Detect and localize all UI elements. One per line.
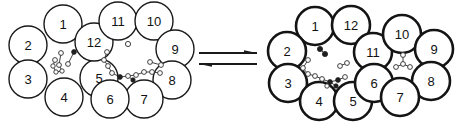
left-circle-4[interactable]: 4 [45,78,83,116]
right-circle-label: 1 [311,19,318,34]
left-circle-label: 3 [24,72,31,87]
atom-node-open [126,74,131,79]
atom-node-open [142,70,147,75]
atom-node-open [159,63,164,68]
atom-node-open [51,64,55,68]
right-circle-label: 4 [315,94,322,109]
atom-node-open [158,71,163,76]
left-circle-label: 6 [106,92,113,107]
equilibrium-figure: 123451211109876 112234511610987 [0,0,457,125]
atom-node-open [150,70,155,75]
atom-node-open [105,50,110,55]
right-cavity-small [394,53,413,70]
left-circle-label: 8 [168,73,175,88]
right-circle-label: 7 [396,90,403,105]
atom-node-open [401,53,406,58]
equilibrium-arrows[interactable] [199,50,257,67]
atom-node-open [134,73,139,78]
forward-arrow[interactable] [199,50,257,53]
right-circle-label: 3 [284,76,291,91]
atom-node-open [54,70,58,74]
right-circle-label: 5 [349,94,356,109]
atom-node-filled [131,78,135,82]
atom-node-open [313,74,318,79]
atom-node-open [106,64,111,69]
atom-node-open [66,62,71,67]
right-circle-label: 6 [370,76,377,91]
atom-node-open [148,60,153,65]
atom-node-open [325,84,329,88]
left-circle-label: 9 [171,42,178,57]
atom-node-open [110,71,115,76]
left-circle-label: 12 [87,35,101,50]
atom-node-open [338,64,343,69]
left-circle-11[interactable]: 11 [99,2,137,40]
atom-node-open [102,58,107,63]
left-circle-label: 2 [24,38,31,53]
atom-node-filled [328,80,333,85]
left-circle-label: 10 [147,14,161,29]
left-circle-label: 4 [60,90,67,105]
left-circle-label: 11 [111,14,125,29]
atom-node-open [343,75,348,80]
left-circle-7[interactable]: 7 [125,80,163,118]
atom-node-open [401,62,406,67]
left-circle-label: 7 [140,92,147,107]
atom-node-open [394,65,399,70]
atom-node-open [408,65,413,70]
atom-node-open [306,72,311,77]
atom-node-open [57,63,62,68]
left-cavity-small [51,50,77,75]
atom-node-open [301,66,306,71]
reverse-arrow[interactable] [199,64,257,67]
atom-node-filled [317,46,322,51]
atom-node-open [59,51,64,56]
atom-node-filled [334,84,338,88]
atom-node-open [306,58,311,63]
left-circle-2[interactable]: 2 [9,26,47,64]
atom-node-open [345,61,350,66]
left-circle-3[interactable]: 3 [9,60,47,98]
left-circle-label: 1 [59,17,66,32]
atom-node-filled [72,50,77,55]
right-circle-4[interactable]: 4 [300,82,338,120]
atom-node-filled [322,51,327,56]
atom-node-filled [336,78,341,83]
atom-node-open [320,77,325,82]
atom-node-open [53,58,58,63]
atom-node-filled [118,75,123,80]
right-circle-label: 10 [395,27,409,42]
right-circle-7[interactable]: 7 [381,78,419,116]
atom-node-open [125,41,130,46]
right-circle-label: 2 [283,44,290,59]
right-circle-label: 9 [430,42,437,57]
right-circle-label: 11 [366,45,380,60]
atom-node-open [60,69,64,73]
left-circle-6[interactable]: 6 [91,80,129,118]
right-structure[interactable]: 112234511610987 [268,6,453,120]
diagram-canvas: 123451211109876 112234511610987 [0,0,457,125]
right-circle-label: 8 [427,74,434,89]
right-circle-label: 12 [344,18,358,33]
